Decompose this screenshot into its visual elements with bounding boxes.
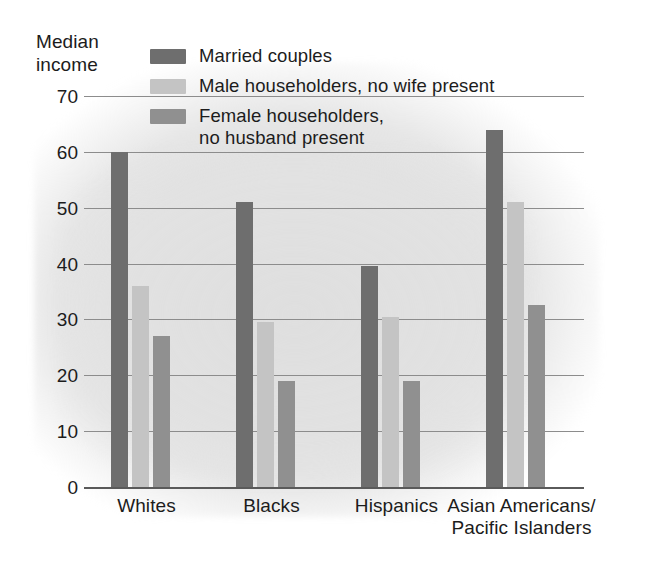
bar <box>528 305 545 487</box>
bar-group <box>459 96 584 487</box>
y-tick-label-30: 30 <box>38 310 78 329</box>
bar <box>278 381 295 487</box>
y-axis-ticks: 010203040506070 <box>36 96 78 487</box>
gridline-0 <box>84 487 584 489</box>
legend-swatch-male <box>150 79 186 94</box>
y-tick-label-70: 70 <box>38 87 78 106</box>
bar <box>403 381 420 487</box>
bar <box>382 317 399 487</box>
y-tick-label-50: 50 <box>38 198 78 217</box>
bar <box>507 202 524 487</box>
legend-swatch-married <box>150 49 186 64</box>
y-tick-label-10: 10 <box>38 422 78 441</box>
bar <box>486 130 503 487</box>
bar-group <box>84 96 209 487</box>
bar-groups <box>84 96 584 487</box>
y-tick-label-40: 40 <box>38 254 78 273</box>
bar <box>111 152 128 487</box>
y-tick-label-20: 20 <box>38 366 78 385</box>
y-axis-title: Median income <box>36 30 99 76</box>
bar <box>257 322 274 487</box>
bar <box>153 336 170 487</box>
bar <box>132 286 149 487</box>
legend-item-married: Married couples <box>150 45 580 69</box>
x-axis-label: Asian Americans/ Pacific Islanders <box>439 495 604 539</box>
bar <box>236 202 253 487</box>
bar <box>361 266 378 487</box>
plot-area: WhitesBlacksHispanicsAsian Americans/ Pa… <box>84 96 584 487</box>
bar-group <box>334 96 459 487</box>
bar-group <box>209 96 334 487</box>
bar-chart: Median income Married couples Male house… <box>0 0 651 582</box>
y-tick-label-60: 60 <box>38 142 78 161</box>
y-tick-label-0: 0 <box>38 478 78 497</box>
legend-label-male: Male householders, no wife present <box>199 75 494 97</box>
legend-label-married: Married couples <box>199 45 332 67</box>
